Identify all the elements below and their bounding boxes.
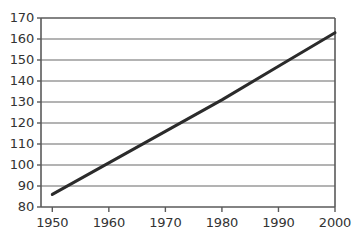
y-axis-tick-label: 100 <box>0 158 34 171</box>
y-axis-tick-label: 170 <box>0 11 34 24</box>
y-axis-tick-label: 80 <box>0 200 34 213</box>
x-axis-tick-label: 1950 <box>24 216 80 229</box>
y-axis-tick-label: 150 <box>0 53 34 66</box>
x-axis-tick-label: 1970 <box>137 216 193 229</box>
x-axis-tick-label: 1960 <box>81 216 137 229</box>
x-axis-tick-label: 2000 <box>307 216 356 229</box>
data-series-line <box>52 33 335 195</box>
y-axis-tick-label: 160 <box>0 32 34 45</box>
gridlines-group <box>41 39 335 186</box>
y-axis-tick-label: 90 <box>0 179 34 192</box>
y-axis-tick-label: 130 <box>0 95 34 108</box>
y-axis-tick-label: 110 <box>0 137 34 150</box>
x-axis-tick-label: 1980 <box>194 216 250 229</box>
y-axis-tick-label: 120 <box>0 116 34 129</box>
x-axis-tick-label: 1990 <box>250 216 306 229</box>
y-axis-tick-label: 140 <box>0 74 34 87</box>
